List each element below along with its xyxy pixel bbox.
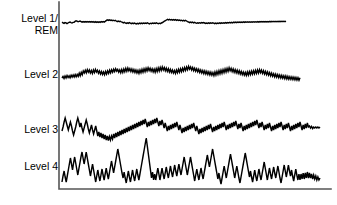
sleep-stage-eeg-figure: Level 1/ REM Level 2 Level 3 Level 4 <box>0 0 337 205</box>
channel-label-level-1-rem: Level 1/ REM <box>2 13 58 36</box>
trace-level-1-rem <box>62 19 286 24</box>
channel-label-level-3: Level 3 <box>2 124 58 136</box>
trace-level-4 <box>62 138 320 184</box>
channel-label-level-2: Level 2 <box>2 69 58 81</box>
axis-lines <box>59 2 331 189</box>
channel-label-level-4: Level 4 <box>2 161 58 173</box>
trace-level-2 <box>62 66 300 80</box>
channel-labels: Level 1/ REM Level 2 Level 3 Level 4 <box>0 0 58 205</box>
trace-level-3 <box>62 118 320 141</box>
